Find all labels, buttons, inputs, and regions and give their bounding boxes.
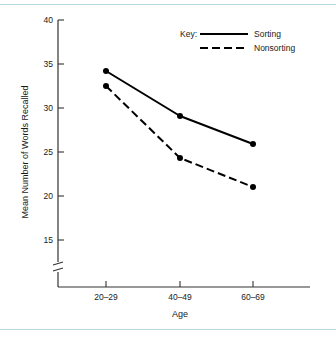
- y-tick-label-25: 25: [44, 147, 54, 157]
- data-point-nonsorting-1: [177, 155, 183, 161]
- y-tick-label-35: 35: [44, 59, 54, 69]
- legend-key-label: Key:: [180, 29, 197, 39]
- x-tick-label-0: 20–29: [94, 292, 118, 302]
- x-tick-label-1: 40–49: [168, 292, 192, 302]
- chart-legend: Key: Sorting Nonsorting: [180, 29, 295, 53]
- y-axis-break-icon: [53, 262, 63, 271]
- y-axis-title: Mean Number of Words Recalled: [20, 86, 30, 219]
- y-tick-label-20: 20: [44, 191, 54, 201]
- y-tick-label-40: 40: [44, 15, 54, 25]
- data-point-sorting-1: [177, 113, 183, 119]
- legend-label-sorting: Sorting: [254, 29, 281, 39]
- data-point-sorting-0: [103, 68, 109, 74]
- y-tick-label-15: 15: [44, 235, 54, 245]
- chart-figure: 40 35 30 25 20 15 20–29 40–49 60–69 Age …: [0, 0, 336, 337]
- y-tick-label-30: 30: [44, 103, 54, 113]
- data-point-nonsorting-2: [250, 184, 256, 190]
- x-tick-label-2: 60–69: [241, 292, 265, 302]
- data-point-sorting-2: [250, 141, 256, 147]
- data-point-nonsorting-0: [103, 83, 109, 89]
- x-axis-title: Age: [172, 309, 188, 319]
- line-chart-plot: 40 35 30 25 20 15 20–29 40–49 60–69 Age …: [0, 0, 336, 337]
- legend-label-nonsorting: Nonsorting: [254, 43, 295, 53]
